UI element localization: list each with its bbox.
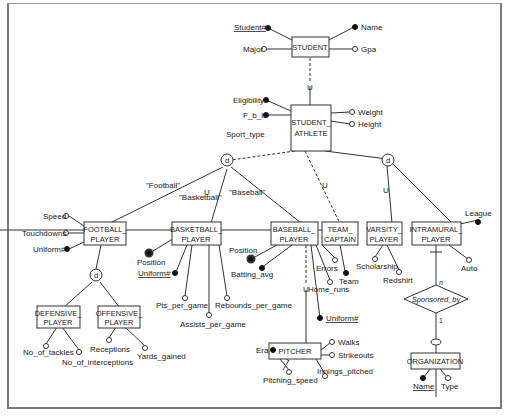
svg-text:BASKETBALL_: BASKETBALL_ — [170, 225, 223, 234]
entity-defensive-player[interactable]: DEFENSIVE_ PLAYER — [35, 306, 83, 328]
attr-auto: Auto — [461, 264, 478, 273]
attr-errors: Errors — [316, 264, 338, 273]
required-attribute-dot-icon — [264, 98, 269, 103]
subset-marker: U — [307, 83, 313, 92]
attr-weight: Weight — [358, 108, 384, 117]
attribute-circle-icon — [328, 280, 333, 285]
subset-marker: U — [383, 186, 389, 195]
disjoint-circle-right: d — [382, 154, 394, 166]
eer-diagram: STUDENT STUDENT_ ATHLETE FOOTBALL_ PLAYE… — [0, 0, 507, 416]
attr-innings: Innings_pitched — [317, 367, 373, 376]
entity-pitcher[interactable]: PITCHER — [269, 343, 321, 359]
svg-text:FOOTBALL_: FOOTBALL_ — [83, 225, 127, 234]
svg-text:INTRAMURAL_: INTRAMURAL_ — [410, 225, 464, 234]
label-baseball: "Baseball" — [229, 188, 266, 197]
svg-text:PITCHER: PITCHER — [279, 347, 313, 356]
required-attribute-dot-icon — [353, 25, 358, 30]
label-basketball: "Basketball" — [179, 193, 222, 202]
label-sport-type: Sport_type — [226, 130, 265, 139]
svg-text:PLAYER: PLAYER — [181, 235, 211, 244]
svg-text:d: d — [225, 156, 229, 165]
attribute-circle-icon — [183, 296, 188, 301]
svg-text:PLAYER: PLAYER — [279, 235, 309, 244]
key-attribute-dot-icon — [173, 271, 178, 276]
required-attribute-dot-icon — [476, 220, 481, 225]
attribute-circle-icon — [397, 270, 402, 275]
svg-text:PLAYER: PLAYER — [104, 318, 134, 327]
entity-offensive-player[interactable]: OFFENSIVE_ PLAYER — [96, 306, 144, 328]
attribute-circle-icon — [287, 370, 292, 375]
attr-pts: Pts_per_game — [156, 301, 209, 310]
attr-team: Team — [339, 277, 359, 286]
svg-text:DEFENSIVE_: DEFENSIVE_ — [35, 309, 83, 318]
attribute-circle-icon — [350, 122, 355, 127]
attribute-circle-icon — [330, 353, 335, 358]
attribute-circle-icon — [143, 346, 148, 351]
label-football: "Football" — [146, 181, 180, 190]
svg-text:BASEBALL_: BASEBALL_ — [273, 225, 316, 234]
subset-marker: U — [322, 181, 328, 190]
svg-text:PLAYER: PLAYER — [90, 235, 120, 244]
entity-student-athlete[interactable]: STUDENT_ ATHLETE — [291, 105, 332, 151]
attr-pitching-speed: Pitching_speed — [263, 376, 318, 385]
attr-redshirt: Redshirt — [383, 276, 414, 285]
entity-basketball-player[interactable]: BASKETBALL_ PLAYER — [170, 222, 223, 245]
svg-text:d: d — [386, 156, 390, 165]
key-attribute-dot-icon — [318, 316, 323, 321]
cardinality-1: 1 — [439, 317, 443, 324]
attr-interceptions: No_of_interceptions — [62, 358, 133, 367]
attr-rebounds: Rebounds_per_game — [215, 301, 292, 310]
attr-batting: Batting_avg — [231, 270, 273, 279]
svg-text:PLAYER: PLAYER — [43, 318, 73, 327]
attr-position-bk: Position — [137, 258, 165, 267]
attribute-circle-icon — [467, 258, 472, 263]
attribute-circle-icon — [330, 340, 335, 345]
attribute-circle-icon — [446, 376, 451, 381]
relationship-sponsored-by[interactable]: Sponsored_by — [404, 285, 468, 313]
attr-assists: Assists_per_game — [180, 320, 246, 329]
attribute-circle-icon — [225, 296, 230, 301]
attribute-circle-icon — [350, 110, 355, 115]
multivalued-attribute-icon — [248, 256, 255, 263]
entity-team-captain[interactable]: TEAM_ CAPTAIN — [322, 222, 358, 245]
entity-baseball-player[interactable]: BASEBALL_ PLAYER — [271, 222, 318, 245]
svg-text:PLAYER: PLAYER — [421, 235, 451, 244]
attr-receptions: Receptions — [90, 345, 130, 354]
multivalued-attribute-icon — [146, 250, 153, 257]
svg-text:ORGANIZATION: ORGANIZATION — [407, 357, 464, 366]
svg-text:STUDENT: STUDENT — [292, 43, 328, 52]
svg-text:VARSITY_: VARSITY_ — [366, 225, 403, 234]
participation-oval-icon — [431, 339, 441, 345]
attr-major: Major — [243, 45, 263, 54]
svg-text:PLAYER: PLAYER — [369, 235, 399, 244]
disjoint-circle-football: d — [90, 269, 102, 281]
attr-uniform-bs: Uniform# — [326, 314, 359, 323]
svg-text:ATHLETE: ATHLETE — [294, 129, 327, 138]
svg-text:CAPTAIN: CAPTAIN — [324, 235, 356, 244]
svg-text:TEAM_: TEAM_ — [327, 225, 353, 234]
attr-tackles: No_of_tackles — [23, 348, 74, 357]
entity-football-player[interactable]: FOOTBALL_ PLAYER — [83, 222, 127, 245]
required-attribute-dot-icon — [271, 348, 276, 353]
required-attribute-dot-icon — [344, 271, 349, 276]
attr-org-name: Name — [413, 382, 435, 391]
entity-varsity-player[interactable]: VARSITY_ PLAYER — [366, 222, 403, 245]
attr-gpa: Gpa — [361, 45, 377, 54]
attr-strikeouts: Strikeouts — [338, 351, 374, 360]
attr-era: Era — [256, 346, 269, 355]
attr-org-type: Type — [441, 382, 459, 391]
attr-yards: Yards_gained — [137, 352, 186, 361]
svg-text:STUDENT_: STUDENT_ — [291, 118, 331, 127]
entity-intramural-player[interactable]: INTRAMURAL_ PLAYER — [410, 222, 464, 245]
svg-text:OFFENSIVE_: OFFENSIVE_ — [96, 309, 144, 318]
attr-uniform-fb: Uniform# — [33, 245, 66, 254]
attribute-circle-icon — [373, 257, 378, 262]
entity-student[interactable]: STUDENT — [292, 37, 329, 57]
attribute-circle-icon — [333, 258, 338, 263]
attr-position-bs: Position — [229, 246, 257, 255]
attr-touchdowns: Touchdowns — [22, 229, 66, 238]
attr-speed: Speed — [43, 212, 66, 221]
attribute-circle-icon — [353, 47, 358, 52]
attr-fbb: F_b_b — [243, 111, 266, 120]
entity-organization[interactable]: ORGANIZATION — [407, 353, 464, 369]
